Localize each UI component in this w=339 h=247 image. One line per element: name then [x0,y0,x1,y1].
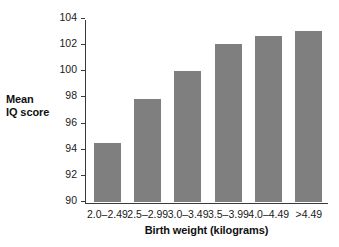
x-axis-tick-label: >4.49 [289,208,329,221]
y-axis-tick-label: 90 [65,194,77,207]
y-axis-tick-label: 94 [65,142,77,155]
y-axis-tick: 96 [81,123,85,124]
y-axis-tick-label: 102 [59,37,77,50]
y-axis-tick-label: 104 [59,11,77,24]
bar [94,143,121,202]
y-axis-tick: 98 [81,96,85,97]
bar [295,31,322,202]
bar [134,99,161,202]
y-axis-tick-label: 96 [65,116,77,129]
x-axis-tick-label: 2.5–2.99 [127,208,167,221]
x-axis-line [85,203,328,204]
y-axis-tick: 102 [81,44,85,45]
y-axis-tick-label: 92 [65,168,77,181]
plot-area: 9092949698100102104 2.0–2.492.5–2.993.0–… [85,20,327,203]
y-axis-tick: 92 [81,175,85,176]
bar [215,44,242,202]
y-axis-title-line1: Mean [6,93,56,106]
y-axis-title-line2: IQ score [6,106,56,119]
bar [255,36,282,202]
x-axis-tick-label: 4.0–4.49 [248,208,288,221]
y-axis-tick: 100 [81,70,85,71]
y-axis-tick: 94 [81,149,85,150]
x-axis-tick-label: 2.0–2.49 [87,208,127,221]
bar-chart-figure: Mean IQ score 9092949698100102104 2.0–2.… [0,0,339,247]
y-axis-tick-label: 98 [65,89,77,102]
x-axis-title: Birth weight (kilograms) [85,224,328,236]
bar [174,71,201,202]
y-axis-line [85,20,86,204]
y-axis-tick-label: 100 [59,63,77,76]
y-axis-tick: 104 [81,18,85,19]
y-axis-title: Mean IQ score [6,93,56,119]
y-axis-tick: 90 [81,201,85,202]
x-axis-tick-label: 3.0–3.49 [168,208,208,221]
x-axis-tick-label: 3.5–3.99 [208,208,248,221]
